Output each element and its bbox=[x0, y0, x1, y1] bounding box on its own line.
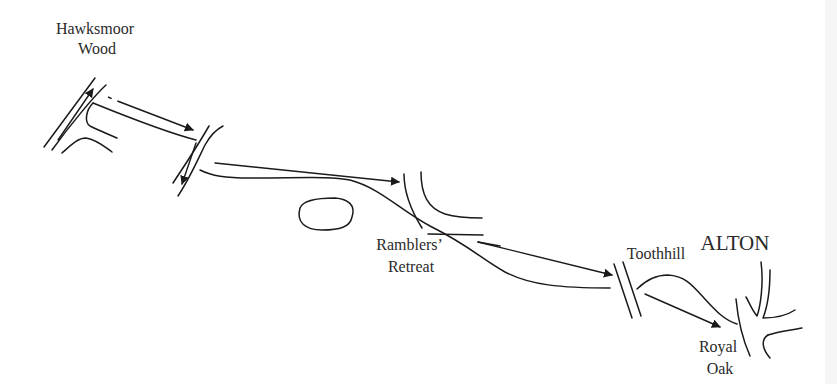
route-arrow-east-2 bbox=[215, 163, 399, 182]
ramblers-crossing bbox=[404, 172, 500, 246]
label-alton: ALTON bbox=[701, 231, 770, 255]
route-map: Hawksmoor Wood Ramblers’ Retreat Toothhi… bbox=[0, 0, 837, 384]
route-arrow-east-1 bbox=[120, 102, 193, 130]
route-arrow-south-east bbox=[645, 294, 720, 327]
toothhill-crossing bbox=[614, 262, 641, 318]
second-crossing bbox=[173, 126, 223, 196]
label-toothhill: Toothhill bbox=[627, 245, 686, 262]
alton-junction bbox=[736, 262, 802, 358]
route-arrow-north bbox=[58, 89, 93, 140]
route-dashed-start bbox=[108, 97, 120, 102]
hawksmoor-junction bbox=[44, 78, 117, 153]
label-hawksmoor-wood: Hawksmoor Wood bbox=[56, 20, 138, 57]
label-ramblers-retreat: Ramblers’ Retreat bbox=[376, 236, 445, 275]
track-to-alton bbox=[637, 275, 737, 324]
oval-pond bbox=[299, 198, 353, 230]
route-arrow-east-3 bbox=[478, 242, 612, 275]
label-royal-oak: Royal Oak bbox=[699, 338, 741, 377]
